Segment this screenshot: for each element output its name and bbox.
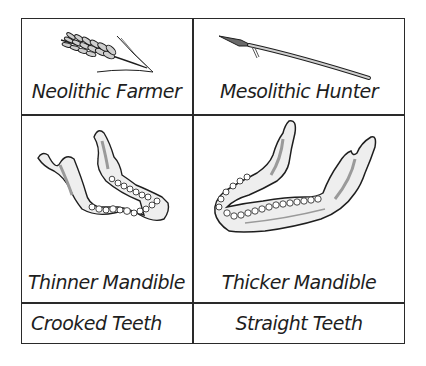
thin-mandible-icon: [36, 123, 176, 238]
wheat-icon: [57, 32, 157, 77]
cell-thicker-mandible: Thicker Mandible: [193, 115, 405, 302]
cell-straight-teeth: Straight Teeth: [193, 303, 405, 344]
cell-mesolithic-hunter: Mesolithic Hunter: [193, 18, 405, 114]
label-straight-teeth: Straight Teeth: [193, 312, 405, 334]
label-neolithic-farmer: Neolithic Farmer: [21, 80, 192, 102]
label-thicker-mandible: Thicker Mandible: [193, 271, 405, 293]
label-thinner-mandible: Thinner Mandible: [21, 271, 192, 293]
cell-neolithic-farmer: Neolithic Farmer: [21, 18, 192, 114]
spear-icon: [219, 32, 379, 82]
label-crooked-teeth: Crooked Teeth: [21, 312, 192, 334]
thick-mandible-icon: [205, 119, 390, 264]
cell-crooked-teeth: Crooked Teeth: [21, 303, 192, 344]
cell-thinner-mandible: Thinner Mandible: [21, 115, 192, 302]
label-mesolithic-hunter: Mesolithic Hunter: [193, 80, 405, 102]
